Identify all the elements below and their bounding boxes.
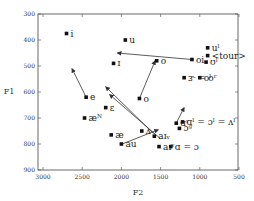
axes [38, 14, 238, 170]
point-label: ʌ [145, 126, 152, 136]
data-point [157, 145, 161, 149]
data-point [65, 32, 69, 36]
data-point [120, 142, 124, 146]
data-point [178, 127, 182, 131]
data-point [169, 145, 173, 149]
y-tick-label: 600 [24, 88, 36, 95]
data-point [104, 106, 108, 110]
point-label: ɑˡ = ɔˡ = ʌˡ [187, 117, 236, 127]
point-label: au [125, 139, 136, 149]
point-label: oi [196, 55, 204, 65]
x-tick-label: 500 [233, 173, 245, 180]
point-label: ɑ = ɔ [175, 142, 199, 152]
point-label: e [90, 92, 95, 102]
point-label: ɔᵍ [183, 123, 192, 133]
x-tick-label: 2000 [114, 173, 129, 180]
data-point [140, 129, 144, 133]
data-point [84, 95, 88, 99]
arrow [117, 53, 191, 60]
point-label: aɪᵥ [158, 131, 170, 141]
point-label: u [129, 35, 135, 45]
point-label: o [143, 94, 148, 104]
data-point [206, 54, 210, 58]
point-label: ɪ [118, 58, 121, 68]
formant-chart: 3000250020001500100050030040050060070080… [0, 0, 254, 201]
point-label: ɝ = oʳ [188, 73, 217, 83]
y-tick-label: 300 [24, 10, 36, 17]
y-tick-label: 400 [24, 36, 36, 43]
x-axis-label: F2 [133, 188, 144, 197]
point-label: i [71, 29, 74, 39]
point-label: ʊˡ [210, 57, 218, 67]
x-tick-label: 1000 [192, 173, 207, 180]
y-tick-label: 500 [24, 62, 36, 69]
data-point [112, 62, 116, 66]
point-label: ɛ [110, 103, 115, 113]
arrow [72, 69, 86, 98]
x-tick-label: 1500 [153, 173, 168, 180]
point-label: æ [115, 130, 123, 140]
data-point [206, 46, 210, 50]
data-point [155, 59, 159, 63]
data-point [174, 121, 178, 125]
data-point [153, 134, 157, 138]
data-point [190, 58, 194, 62]
point-label: æᴺ [89, 113, 102, 123]
point-label: o [161, 56, 166, 66]
data-point [124, 38, 128, 42]
y-tick-label: 800 [24, 140, 36, 147]
data-point [182, 76, 186, 80]
data-point [204, 60, 208, 64]
y-tick-label: 900 [24, 166, 36, 173]
x-tick-label: 2500 [75, 173, 90, 180]
data-point [83, 116, 87, 120]
vowel-points: iuuˡ<tour>ʊˡoiɪooˡɝ = oʳoeɛæᴺæɑʳɑˡ = ɔˡ … [65, 29, 246, 152]
data-point [138, 97, 142, 101]
y-tick-label: 700 [24, 114, 36, 121]
plot-frame [38, 14, 238, 170]
data-point [109, 133, 113, 137]
y-axis-label: F1 [4, 87, 15, 96]
x-tick-label: 3000 [35, 173, 50, 180]
